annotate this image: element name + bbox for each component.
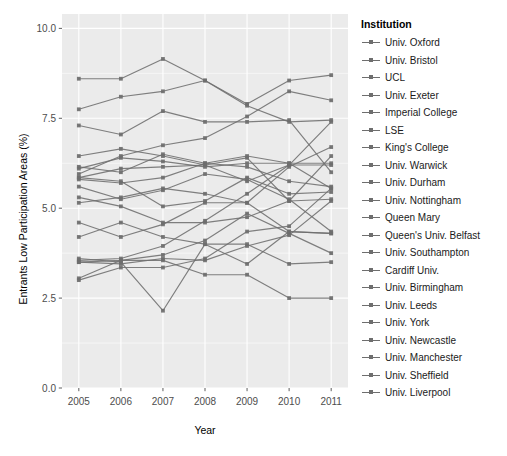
series-point [245, 192, 249, 196]
series-point [287, 165, 291, 169]
legend-item[interactable]: UCL [361, 69, 507, 87]
legend-item-label: Univ. Nottingham [385, 192, 461, 210]
legend-key-line-icon [361, 209, 381, 227]
legend-item[interactable]: Univ. Nottingham [361, 192, 507, 210]
series-point [245, 115, 249, 119]
series-point [245, 178, 249, 182]
legend-item[interactable]: Univ. Leeds [361, 297, 507, 315]
chart-figure: Entrants Low Participation Areas (%) 0.0… [0, 0, 507, 456]
y-tick-label: 2.5 [22, 293, 56, 304]
series-point [119, 77, 123, 81]
legend-item[interactable]: Imperial College [361, 104, 507, 122]
y-tick-label: 5.0 [22, 203, 56, 214]
series-point [161, 188, 165, 192]
legend-item[interactable]: Univ. Birmingham [361, 279, 507, 297]
legend-key-line-icon [361, 367, 381, 385]
legend-item[interactable]: Univ. Bristol [361, 52, 507, 70]
legend-item[interactable]: Univ. Oxford [361, 34, 507, 52]
series-point [329, 154, 333, 158]
legend-key-point [369, 163, 373, 167]
series-point [245, 201, 249, 205]
series-point [203, 199, 207, 203]
legend-item-label: Univ. Manchester [385, 349, 462, 367]
series-point [245, 262, 249, 266]
series-point [119, 235, 123, 239]
series-point [119, 262, 123, 266]
series-point [119, 197, 123, 201]
legend-item[interactable]: Queen Mary [361, 209, 507, 227]
series-point [161, 257, 165, 261]
legend-item[interactable]: Univ. Liverpool [361, 384, 507, 402]
legend-item[interactable]: Cardiff Univ. [361, 262, 507, 280]
legend-key-point [369, 285, 373, 289]
legend-key-line-icon [361, 297, 381, 315]
series-point [287, 224, 291, 228]
series-point [287, 199, 291, 203]
legend-key-point [369, 233, 373, 237]
series-point [287, 296, 291, 300]
series-point [329, 185, 333, 189]
series-point [77, 107, 81, 111]
legend-item-label: Cardiff Univ. [385, 262, 439, 280]
legend-item[interactable]: Univ. Sheffield [361, 367, 507, 385]
series-point [119, 167, 123, 171]
series-point [161, 266, 165, 270]
series-point [119, 221, 123, 225]
legend-item-label: Univ. Oxford [385, 34, 440, 52]
series-point [77, 221, 81, 225]
legend-item[interactable]: Queen's Univ. Belfast [361, 227, 507, 245]
legend-key-point [369, 75, 373, 79]
legend-key-line-icon [361, 349, 381, 367]
legend-item[interactable]: LSE [361, 122, 507, 140]
legend-key-point [369, 58, 373, 62]
series-point [77, 124, 81, 128]
legend-key-line-icon [361, 174, 381, 192]
legend-key-point [369, 303, 373, 307]
legend-item[interactable]: Univ. Durham [361, 174, 507, 192]
legend-item[interactable]: King's College [361, 139, 507, 157]
series-point [329, 161, 333, 165]
series-point [119, 156, 123, 160]
legend-key-line-icon [361, 227, 381, 245]
legend-key-point [369, 215, 373, 219]
series-point [161, 57, 165, 61]
legend-item[interactable]: Univ. York [361, 314, 507, 332]
legend-key-point [369, 198, 373, 202]
series-point [287, 118, 291, 122]
series-point [161, 253, 165, 257]
legend-title: Institution [361, 18, 507, 30]
legend-item[interactable]: Univ. Newcastle [361, 332, 507, 350]
series-point [161, 109, 165, 113]
series-point [119, 266, 123, 270]
legend-item-label: Univ. Southampton [385, 244, 469, 262]
legend-key-point [369, 355, 373, 359]
legend-item-label: Univ. Durham [385, 174, 445, 192]
series-point [77, 278, 81, 282]
series-point [77, 260, 81, 264]
series-point [203, 79, 207, 83]
series-point [77, 235, 81, 239]
series-point [287, 79, 291, 83]
series-point [245, 212, 249, 216]
series-point [329, 251, 333, 255]
x-tick-label: 2007 [152, 396, 174, 407]
legend-item[interactable]: Univ. Southampton [361, 244, 507, 262]
series-point [329, 260, 333, 264]
legend-item-label: Queen Mary [385, 209, 440, 227]
legend-key-line-icon [361, 69, 381, 87]
legend-key-point [369, 338, 373, 342]
series-point [77, 154, 81, 158]
series-point [329, 145, 333, 149]
legend-item[interactable]: Univ. Manchester [361, 349, 507, 367]
series-point [245, 161, 249, 165]
legend-item-label: LSE [385, 122, 404, 140]
series-point [161, 309, 165, 313]
legend-item[interactable]: Univ. Exeter [361, 87, 507, 105]
legend-item-label: Univ. Warwick [385, 157, 447, 175]
x-tick-label: 2005 [68, 396, 90, 407]
x-tick-label: 2010 [278, 396, 300, 407]
legend-item[interactable]: Univ. Warwick [361, 157, 507, 175]
series-point [161, 244, 165, 248]
series-point [329, 118, 333, 122]
x-tick-label: 2008 [194, 396, 216, 407]
